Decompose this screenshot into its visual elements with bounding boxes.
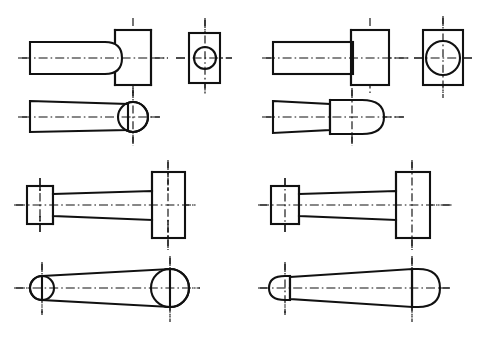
figure-bottom-left (14, 160, 200, 322)
figure-bottom-right (258, 160, 452, 322)
drawing-canvas (0, 0, 480, 337)
view-bl-front-elevation (14, 160, 196, 250)
view-br-plan-view (258, 256, 450, 322)
view-br-front-elevation (258, 160, 452, 250)
view-tr-front-elevation (262, 18, 410, 96)
view-tl-end-view (176, 18, 232, 96)
figure-top-left (18, 18, 232, 146)
view-tl-plan-view (18, 88, 160, 146)
view-tr-end-view (414, 16, 472, 98)
technical-drawing-sheet (0, 0, 480, 337)
figure-top-right (262, 16, 472, 146)
view-tr-plan-view (262, 88, 404, 146)
view-bl-plan-view (14, 256, 200, 322)
view-tl-front-elevation (18, 18, 168, 96)
